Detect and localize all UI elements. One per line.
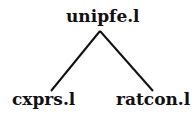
edge-root-to-cxprs (51, 31, 100, 91)
root-node-label: unipfe.l (66, 8, 140, 25)
edge-root-to-ratcon (100, 31, 153, 91)
child-node-label-cxprs: cxprs.l (12, 91, 75, 108)
child-node-label-ratcon: ratcon.l (116, 91, 190, 108)
